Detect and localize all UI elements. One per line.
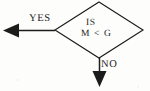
decision-text-line-1: IS <box>86 19 96 29</box>
yes-branch-label: YES <box>29 14 51 25</box>
flowchart-canvas <box>0 0 150 91</box>
flowchart-diagram: YES NO IS M < G <box>0 0 150 91</box>
yes-arrowhead-icon <box>3 24 19 38</box>
decision-text-line-2: M < G <box>81 30 112 40</box>
no-arrowhead-icon <box>93 71 107 87</box>
no-branch-label: NO <box>101 60 117 71</box>
